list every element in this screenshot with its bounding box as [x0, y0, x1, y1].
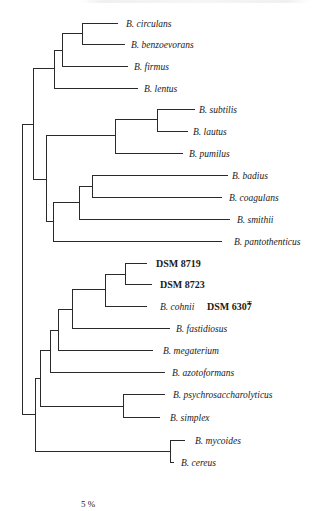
taxon-label-mycoides: B. mycoides	[195, 436, 241, 446]
taxon-label-lentus: B. lentus	[144, 84, 178, 94]
taxon-label-megaterium: B. megaterium	[163, 346, 219, 356]
taxon-label-psychrosaccharolyticus: B. psychrosaccharolyticus	[173, 390, 273, 400]
taxon-label-coagulans: B. coagulans	[229, 193, 279, 203]
type-strain-label: DSM 6307	[207, 301, 252, 312]
taxon-label-dsm8719: DSM 8719	[156, 258, 201, 269]
taxon-label-firmus: B. firmus	[134, 62, 169, 72]
taxon-label-cohnii: B. cohnii	[160, 302, 195, 312]
taxon-label-azotoformans: B. azotoformans	[172, 368, 235, 378]
taxon-label-pantothenticus: B. pantothenticus	[234, 237, 301, 247]
taxon-label-fastidiosus: B. fastidiosus	[176, 324, 228, 334]
taxon-label-pumilus: B. pumilus	[189, 149, 230, 159]
taxon-label-lautus: B. lautus	[193, 127, 227, 137]
phylogenetic-tree: B. circulansB. benzoevoransB. firmusB. l…	[0, 0, 319, 511]
taxon-labels: B. circulansB. benzoevoransB. firmusB. l…	[126, 19, 301, 468]
taxon-label-cereus: B. cereus	[181, 458, 216, 468]
taxon-label-circulans: B. circulans	[126, 19, 172, 29]
taxon-label-badius: B. badius	[232, 171, 268, 181]
taxon-label-subtilis: B. subtilis	[199, 105, 237, 115]
taxon-label-simplex: B. simplex	[170, 413, 210, 423]
type-strain-superscript: T	[247, 299, 252, 307]
taxon-label-dsm8723: DSM 8723	[160, 279, 205, 290]
taxon-label-benzoevorans: B. benzoevorans	[131, 40, 194, 50]
taxon-label-smithii: B. smithii	[237, 215, 274, 225]
scale-bar-label: 5 %	[81, 499, 96, 509]
